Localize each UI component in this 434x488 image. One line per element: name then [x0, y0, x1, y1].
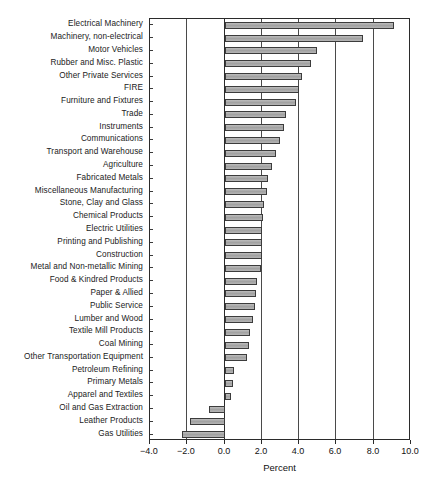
bar	[225, 329, 250, 336]
category-tick	[150, 88, 153, 89]
bar	[225, 214, 263, 221]
x-tick-label: 6.0	[315, 446, 355, 457]
bar	[225, 342, 249, 349]
category-label: Chemical Products	[73, 211, 143, 220]
category-tick	[150, 76, 153, 77]
bar	[225, 175, 269, 182]
category-label: Other Private Services	[59, 71, 143, 80]
x-tick-mark	[261, 440, 262, 444]
bar	[225, 380, 233, 387]
gridline-6	[335, 19, 336, 439]
category-tick	[150, 50, 153, 51]
category-tick	[150, 165, 153, 166]
bar	[225, 124, 285, 131]
bar	[225, 303, 256, 310]
category-tick	[150, 216, 153, 217]
bar	[225, 163, 273, 170]
category-label: Coal Mining	[99, 339, 143, 348]
bar	[225, 47, 317, 54]
category-label: Stone, Clay and Glass	[60, 198, 143, 207]
category-label: Paper & Allied	[90, 288, 143, 297]
x-tick-mark	[410, 440, 411, 444]
bar	[225, 290, 257, 297]
x-tick-mark	[335, 440, 336, 444]
x-tick-mark	[373, 440, 374, 444]
category-label: FIRE	[124, 83, 143, 92]
bar	[190, 418, 224, 425]
bar	[225, 137, 281, 144]
category-tick	[150, 357, 153, 358]
x-tick-mark	[224, 440, 225, 444]
bar-chart: Electrical MachineryMachinery, non-elect…	[0, 0, 434, 488]
category-label: Public Service	[90, 301, 143, 310]
category-label: Leather Products	[79, 416, 143, 425]
category-label: Petroleum Refining	[72, 365, 143, 374]
bar	[182, 431, 225, 438]
category-label: Construction	[96, 250, 143, 259]
category-tick	[150, 434, 153, 435]
category-label: Machinery, non-electrical	[51, 32, 143, 41]
bar	[225, 150, 276, 157]
category-label: Trade	[122, 109, 144, 118]
category-tick	[150, 344, 153, 345]
bar	[225, 367, 234, 374]
category-label: Furniture and Fixtures	[61, 96, 143, 105]
bar	[225, 86, 300, 93]
category-label: Motor Vehicles	[88, 45, 143, 54]
x-tick-label: 4.0	[278, 446, 318, 457]
category-tick	[150, 229, 153, 230]
bar	[225, 252, 262, 259]
gridline-8	[373, 19, 374, 439]
category-label: Electrical Machinery	[68, 19, 143, 28]
category-label: Miscellaneous Manufacturing	[35, 186, 143, 195]
category-tick	[150, 306, 153, 307]
x-tick-label: 2.0	[241, 446, 281, 457]
category-label: Electric Utilities	[86, 224, 143, 233]
x-tick-label: 10.0	[390, 446, 430, 457]
category-label: Textile Mill Products	[69, 326, 143, 335]
category-tick	[150, 255, 153, 256]
x-tick-label: 0.0	[204, 446, 244, 457]
category-tick	[150, 139, 153, 140]
bar	[209, 406, 225, 413]
category-tick	[150, 37, 153, 38]
category-tick	[150, 114, 153, 115]
category-label: Food & Kindred Products	[50, 275, 143, 284]
category-label: Rubber and Misc. Plastic	[50, 58, 143, 67]
category-label: Gas Utilities	[98, 429, 143, 438]
category-tick	[150, 178, 153, 179]
bar	[225, 227, 262, 234]
bar	[225, 22, 395, 29]
category-label: Printing and Publishing	[57, 237, 143, 246]
category-label: Apparel and Textiles	[68, 390, 143, 399]
plot-area	[149, 18, 410, 440]
bar	[225, 239, 262, 246]
x-tick-label: −4.0	[129, 446, 169, 457]
bar	[225, 316, 253, 323]
x-tick-mark	[149, 440, 150, 444]
gridline-4	[298, 19, 299, 439]
category-tick	[150, 203, 153, 204]
category-label: Lumber and Wood	[75, 314, 143, 323]
category-tick	[150, 421, 153, 422]
bar	[225, 188, 268, 195]
category-tick	[150, 382, 153, 383]
category-tick	[150, 152, 153, 153]
x-tick-label: −2.0	[166, 446, 206, 457]
bar	[225, 393, 232, 400]
x-tick-label: 8.0	[353, 446, 393, 457]
category-tick	[150, 24, 153, 25]
bar	[225, 60, 312, 67]
category-tick	[150, 127, 153, 128]
bar	[225, 111, 287, 118]
category-tick	[150, 331, 153, 332]
category-label: Transport and Warehouse	[47, 147, 143, 156]
category-tick	[150, 370, 153, 371]
x-tick-mark	[298, 440, 299, 444]
bar	[225, 354, 247, 361]
category-tick	[150, 267, 153, 268]
category-tick	[150, 408, 153, 409]
bar	[225, 265, 261, 272]
category-label: Instruments	[99, 122, 143, 131]
x-axis-title: Percent	[149, 462, 410, 474]
